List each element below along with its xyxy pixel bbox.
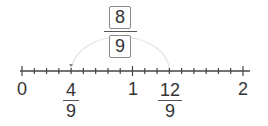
label-four-ninths-den: 9 xyxy=(63,102,79,120)
label-twelve-ninths-den: 9 xyxy=(158,102,182,120)
label-four-ninths-num: 4 xyxy=(63,81,79,99)
jump-fraction-bar xyxy=(104,31,137,32)
jump-numerator-box[interactable]: 8 xyxy=(109,6,131,29)
label-two: 2 xyxy=(235,80,251,98)
label-zero: 0 xyxy=(14,80,30,98)
label-one: 1 xyxy=(125,80,141,98)
label-twelve-ninths-num: 12 xyxy=(158,81,182,99)
jump-denominator-box[interactable]: 9 xyxy=(109,35,131,58)
number-line-diagram xyxy=(0,0,268,126)
